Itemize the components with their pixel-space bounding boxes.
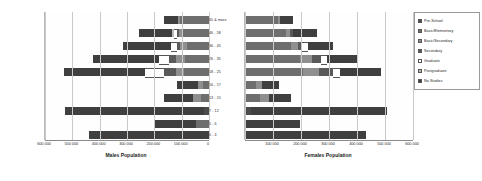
bar-segment-basic-secondary (260, 94, 270, 102)
bar-segment-no-studies (280, 16, 292, 24)
gridline (329, 12, 330, 140)
bar-males-65&more[interactable] (164, 16, 209, 24)
age-category-65-more: 65 & more (209, 16, 243, 24)
bar-males-46-58[interactable] (139, 29, 209, 37)
legend-item-basic-secondary[interactable]: Basic/Secondary (418, 36, 477, 46)
legend-item-pre-school[interactable]: Pre-School (418, 16, 477, 26)
axis-tick-label: 300 000 (321, 142, 335, 146)
axis-tick-label: 300 000 (119, 142, 133, 146)
age-category-36---45: 36 - 45 (209, 42, 243, 50)
bar-segment-no-studies (293, 29, 317, 37)
bar-segment-secondary (164, 68, 175, 76)
bar-segment-no-studies (155, 120, 196, 128)
gridline (245, 12, 246, 140)
axis-tick-label: 0 (207, 142, 209, 146)
bar-segment-basic-elementary (196, 120, 209, 128)
gridline (385, 12, 386, 140)
bar-males-26-35[interactable] (93, 55, 209, 63)
legend-item-secondary[interactable]: Secondary (418, 46, 477, 56)
gridline (154, 12, 155, 140)
bar-females-13-15[interactable] (245, 94, 291, 102)
bar-segment-no-studies (164, 94, 192, 102)
gridline (301, 12, 302, 140)
age-category-16---17: 16 - 17 (209, 81, 243, 89)
bar-segment-basic-elementary (187, 42, 209, 50)
legend-swatch-icon (418, 59, 422, 63)
legend-swatch-icon (418, 29, 422, 33)
axis-tick-label: 200 000 (146, 142, 160, 146)
axis-tick-label: 500 000 (64, 142, 78, 146)
bar-segment-basic-elementary (182, 29, 209, 37)
bar-segment-secondary (319, 68, 333, 76)
legend-swatch-icon (418, 79, 422, 83)
age-category-46---58: 46 - 58 (209, 29, 243, 37)
bar-segment-no-studies (245, 131, 366, 139)
bar-females-0-4[interactable] (245, 131, 366, 139)
gridline (100, 12, 101, 140)
bar-segment-no-studies (93, 55, 159, 63)
bar-segment-no-studies (64, 68, 145, 76)
females-axis-ticks: 100 000200 000300 000400 000500 000600 0… (244, 142, 412, 152)
bar-segment-secondary (312, 55, 320, 63)
gridline (45, 12, 46, 140)
bar-segment-basic-secondary (303, 68, 319, 76)
bar-segment-basic-elementary (184, 68, 209, 76)
bar-segment-no-studies (251, 107, 387, 115)
bar-males-18-25[interactable] (64, 68, 209, 76)
bar-females-7-12[interactable] (245, 107, 387, 115)
age-category-18---25: 18 - 25 (209, 68, 243, 76)
legend-swatch-icon (418, 49, 422, 53)
bar-females-46-58[interactable] (245, 29, 317, 37)
bar-segment-no-studies (139, 29, 171, 37)
age-category-5---6: 5 - 6 (209, 120, 243, 128)
age-category-7---12: 7 - 12 (209, 107, 243, 115)
legend-label: Graduate (424, 59, 440, 63)
females-plot-area (244, 12, 414, 140)
legend-item-graduate[interactable]: Graduate (418, 56, 477, 66)
bar-segment-basic-elementary (245, 81, 256, 89)
legend-label: No Studies (424, 79, 443, 83)
population-pyramid-chart: 65 & more46 - 5836 - 4526 - 3518 - 2516 … (0, 0, 482, 181)
legend-item-basic-elementary[interactable]: Basic/Elementary (418, 26, 477, 36)
bar-segment-no-studies (340, 68, 381, 76)
bar-segment-no-studies (327, 55, 358, 63)
bar-females-36-45[interactable] (245, 42, 333, 50)
bar-males-13-15[interactable] (164, 94, 209, 102)
legend-label: Basic/Secondary (424, 39, 452, 43)
bar-females-18-25[interactable] (245, 68, 381, 76)
bar-segment-graduate (321, 55, 328, 65)
bar-males-36-45[interactable] (123, 42, 209, 50)
bar-segment-no-studies (65, 107, 204, 115)
bar-females-65&more[interactable] (245, 16, 293, 24)
gridline (182, 12, 183, 140)
axis-tick-label: 600 000 (37, 142, 51, 146)
legend-item-postgraduate[interactable]: Postgraduate (418, 66, 477, 76)
axis-tick-label: 100 000 (174, 142, 188, 146)
bar-males-0-4[interactable] (89, 131, 209, 139)
legend-label: Secondary (424, 49, 442, 53)
age-category-labels: 65 & more46 - 5836 - 4526 - 3518 - 2516 … (209, 12, 243, 140)
bar-segment-basic-elementary (201, 94, 209, 102)
age-category-13---15: 13 - 15 (209, 94, 243, 102)
gridline (72, 12, 73, 140)
bar-females-16-17[interactable] (245, 81, 279, 89)
gridline (273, 12, 274, 140)
axis-tick-label: 400 000 (349, 142, 363, 146)
bar-segment-basic-elementary (245, 29, 286, 37)
females-axis-line (245, 140, 413, 141)
legend-label: Postgraduate (424, 69, 447, 73)
bar-segment-no-studies (262, 81, 279, 89)
age-category-26---35: 26 - 35 (209, 55, 243, 63)
gridline (357, 12, 358, 140)
bar-segment-no-studies (123, 42, 171, 50)
males-plot-area (44, 12, 210, 140)
chart-legend: Pre-SchoolBasic/ElementaryBasic/Secondar… (414, 12, 480, 90)
legend-label: Pre-School (424, 19, 443, 23)
bar-segment-basic-elementary (185, 55, 209, 63)
legend-item-no-studies[interactable]: No Studies (418, 76, 477, 86)
age-category-0---4: 0 - 4 (209, 131, 243, 139)
bar-segment-graduate (333, 68, 340, 78)
bar-segment-basic-elementary (245, 94, 260, 102)
bar-males-7-12[interactable] (65, 107, 209, 115)
males-axis-ticks: 600 000500 000400 000300 000200 000100 0… (44, 142, 208, 152)
